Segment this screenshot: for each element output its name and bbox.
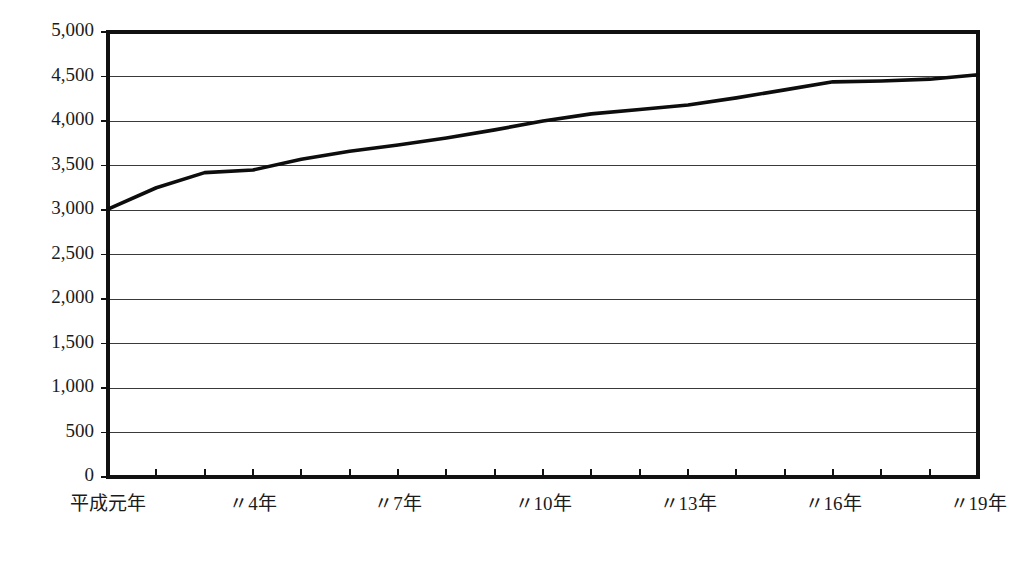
x-axis-tick-label: 〃10年 xyxy=(515,493,572,514)
x-axis-tick-label: 平成元年 xyxy=(70,493,146,514)
line-chart-svg: 05001,0001,5002,0002,5003,0003,5004,0004… xyxy=(0,0,1017,561)
x-axis-tick-label: 〃7年 xyxy=(374,493,422,514)
y-axis-tick-label: 500 xyxy=(66,420,95,441)
y-axis-tick-label: 2,000 xyxy=(51,286,94,307)
x-axis-tick-label: 〃19年 xyxy=(950,493,1007,514)
y-axis-tick-label: 4,000 xyxy=(51,108,94,129)
x-axis-tick-label: 〃13年 xyxy=(660,493,717,514)
y-axis-tick-label: 3,000 xyxy=(51,197,94,218)
y-axis-tick-label: 1,000 xyxy=(51,375,94,396)
y-axis-tick-label: 0 xyxy=(85,464,95,485)
y-axis-tick-label: 2,500 xyxy=(51,242,94,263)
y-axis-tick-label: 4,500 xyxy=(51,64,94,85)
y-axis-tick-label: 3,500 xyxy=(51,153,94,174)
y-axis-tick-label: 1,500 xyxy=(51,331,94,352)
x-axis-tick-label: 〃4年 xyxy=(229,493,277,514)
x-axis-tick-label: 〃16年 xyxy=(805,493,862,514)
chart-figure: 05001,0001,5002,0002,5003,0003,5004,0004… xyxy=(0,0,1017,561)
y-axis-tick-label: 5,000 xyxy=(51,19,94,40)
